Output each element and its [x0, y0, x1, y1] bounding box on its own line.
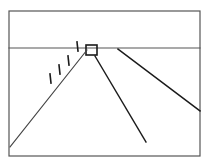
canvas-background: [0, 0, 209, 166]
tick-mark-4: [50, 74, 51, 83]
tick-mark-1: [77, 42, 78, 51]
perspective-drawing: [0, 0, 209, 166]
drawing-canvas: [0, 0, 209, 166]
tick-mark-2: [68, 56, 69, 65]
tick-mark-3: [59, 65, 60, 74]
